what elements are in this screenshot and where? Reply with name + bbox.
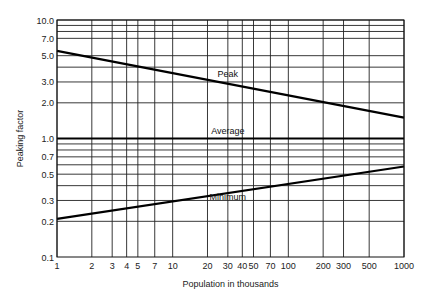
y-axis-label: Peaking factor	[15, 110, 25, 168]
y-tick-label: 2.0	[41, 98, 54, 108]
x-tick-label: 50	[249, 261, 259, 271]
y-tick-label: 0.7	[41, 152, 54, 162]
y-tick-label: 0.5	[41, 170, 54, 180]
y-tick-label: 0.1	[41, 253, 54, 263]
x-tick-label: 3	[110, 261, 115, 271]
y-tick-label: 1.0	[41, 134, 54, 144]
x-tick-label: 4	[124, 261, 129, 271]
x-tick-label: 2	[89, 261, 94, 271]
y-tick-label: 10.0	[36, 16, 54, 26]
series-label-minimum: Minimum	[210, 192, 247, 202]
x-tick-label: 20	[202, 261, 212, 271]
x-tick-label: 1	[54, 261, 59, 271]
series-line-peak	[57, 51, 404, 118]
x-tick-label: 300	[336, 261, 351, 271]
x-tick-label: 200	[316, 261, 331, 271]
peaking-factor-chart: 0.10.20.30.50.71.02.03.05.07.010.0 12345…	[0, 0, 431, 303]
x-tick-label: 40	[237, 261, 247, 271]
x-axis-label: Population in thousands	[182, 279, 279, 289]
series-label-average: Average	[211, 126, 244, 136]
x-tick-label: 100	[281, 261, 296, 271]
x-tick-label: 500	[362, 261, 377, 271]
y-tick-label: 0.2	[41, 217, 54, 227]
y-axis-ticks: 0.10.20.30.50.71.02.03.05.07.010.0	[36, 16, 54, 263]
x-tick-label: 10	[168, 261, 178, 271]
x-tick-label: 5	[135, 261, 140, 271]
x-tick-label: 1000	[394, 261, 414, 271]
y-tick-label: 5.0	[41, 51, 54, 61]
y-tick-label: 7.0	[41, 34, 54, 44]
x-axis-ticks: 1234571020304050701002003005001000	[54, 261, 414, 271]
y-tick-label: 0.3	[41, 196, 54, 206]
x-tick-label: 30	[223, 261, 233, 271]
x-tick-label: 7	[152, 261, 157, 271]
y-tick-label: 3.0	[41, 77, 54, 87]
x-tick-label: 70	[265, 261, 275, 271]
series-label-peak: Peak	[218, 69, 239, 79]
